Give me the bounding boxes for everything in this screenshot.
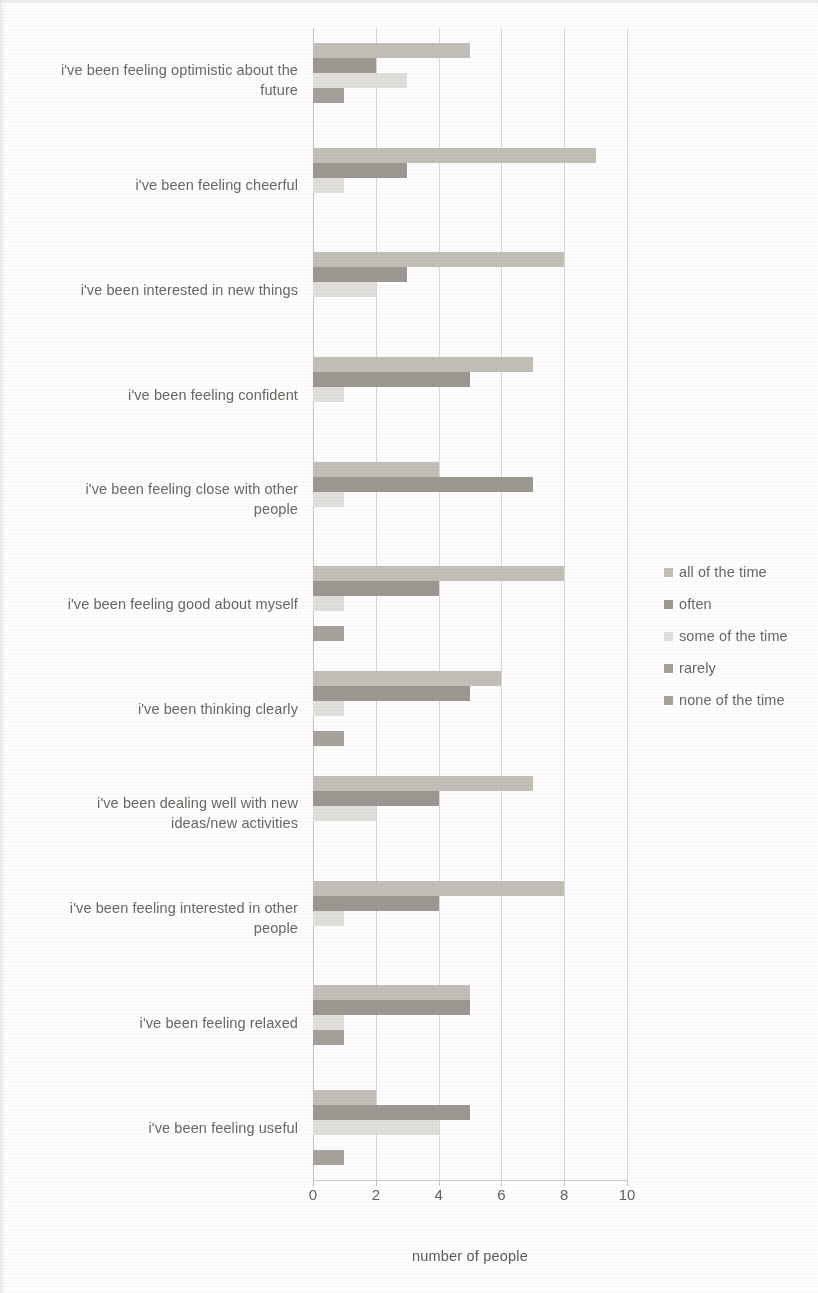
category-label-line: i've been feeling good about myself [8,594,298,614]
category-label: i've been feeling confident [8,385,298,405]
bar [313,148,596,163]
category-label-line: i've been feeling confident [8,385,298,405]
bar [313,267,407,282]
category-label-line: people [8,499,298,519]
legend-item[interactable]: all of the time [664,556,814,588]
scan-edge-artifact-left [0,0,5,1293]
bar [313,776,533,791]
bar [313,566,564,581]
bar [313,911,344,926]
category-label: i've been thinking clearly [8,699,298,719]
category-label-line: i've been feeling cheerful [8,175,298,195]
bar [313,477,533,492]
x-tick-label: 8 [544,1186,584,1203]
bar-group [313,237,627,342]
category-axis-labels: i've been feeling optimistic about thefu… [8,28,306,1180]
legend-item-label: some of the time [679,628,788,644]
x-tick-label: 6 [481,1186,521,1203]
bar [313,88,344,103]
bar-group [313,552,627,657]
bar [313,1000,470,1015]
bar [313,896,439,911]
category-label: i've been dealing well with newideas/new… [8,793,298,833]
legend-item-label: all of the time [679,564,767,580]
legend-item[interactable]: rarely [664,652,814,684]
bar [313,163,407,178]
category-label-line: i've been feeling useful [8,1118,298,1138]
category-label-line: i've been feeling optimistic about the [8,60,298,80]
category-label-line: i've been feeling relaxed [8,1013,298,1033]
plot-area [313,28,627,1180]
category-label: i've been feeling close with otherpeople [8,479,298,519]
bar [313,387,344,402]
bar [313,581,439,596]
x-axis-tick-labels: 0246810 [313,1186,627,1210]
chart-legend: all of the timeoftensome of the timerare… [664,556,814,716]
bar [313,462,439,477]
bar-group [313,656,627,761]
x-tick-label: 2 [356,1186,396,1203]
legend-item-label: often [679,596,712,612]
legend-swatch-icon [664,664,673,673]
category-label: i've been feeling interested in otherpeo… [8,898,298,938]
bar [313,596,344,611]
category-label-line: i've been thinking clearly [8,699,298,719]
x-axis-title: number of people [313,1248,627,1264]
bar [313,73,407,88]
gridline-x-10 [627,28,628,1180]
bar-group [313,1075,627,1180]
bar-group [313,133,627,238]
category-label: i've been feeling cheerful [8,175,298,195]
bar [313,252,564,267]
legend-swatch-icon [664,632,673,641]
bar-group [313,866,627,971]
bar-chart-figure: i've been feeling optimistic about thefu… [0,0,818,1293]
bar [313,1150,344,1165]
bar-group [313,342,627,447]
x-tick-label: 10 [607,1186,647,1203]
bar [313,1030,344,1045]
category-label-line: i've been feeling interested in other [8,898,298,918]
legend-item[interactable]: some of the time [664,620,814,652]
category-label: i've been feeling optimistic about thefu… [8,60,298,100]
bar [313,372,470,387]
bar [313,791,439,806]
legend-item-label: rarely [679,660,716,676]
bar [313,1090,376,1105]
bar-group [313,447,627,552]
x-axis-line [313,1180,627,1181]
bar [313,282,376,297]
legend-item[interactable]: often [664,588,814,620]
bar-group [313,28,627,133]
bar-group [313,971,627,1076]
category-label: i've been feeling useful [8,1118,298,1138]
category-label-line: people [8,918,298,938]
bar [313,1105,470,1120]
category-label-line: i've been feeling close with other [8,479,298,499]
x-tick-label: 4 [419,1186,459,1203]
category-label: i've been interested in new things [8,280,298,300]
bar [313,1120,439,1135]
bar [313,1015,344,1030]
legend-swatch-icon [664,600,673,609]
legend-item[interactable]: none of the time [664,684,814,716]
bar [313,492,344,507]
bar [313,686,470,701]
bar [313,731,344,746]
legend-item-label: none of the time [679,692,785,708]
bar [313,626,344,641]
bar [313,357,533,372]
category-label-line: i've been dealing well with new [8,793,298,813]
legend-swatch-icon [664,568,673,577]
x-tick-label: 0 [293,1186,333,1203]
category-label-line: future [8,80,298,100]
bar [313,881,564,896]
category-label-line: ideas/new activities [8,813,298,833]
bar [313,806,376,821]
bar [313,701,344,716]
bar-group [313,761,627,866]
bar [313,178,344,193]
category-label-line: i've been interested in new things [8,280,298,300]
bar [313,671,501,686]
category-label: i've been feeling relaxed [8,1013,298,1033]
